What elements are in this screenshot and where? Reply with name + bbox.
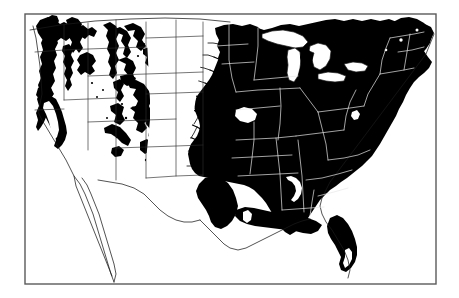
forest-blue-mountains <box>77 52 96 75</box>
forest-florida-peninsula <box>327 215 357 272</box>
forest-utah-plateaus <box>110 103 125 125</box>
map-canvas <box>0 0 459 298</box>
forest-east-texas-pines <box>196 176 238 229</box>
outline-baja-california <box>74 176 116 282</box>
nonforest-lake-champlain <box>399 38 402 41</box>
forest-cover-layer <box>36 15 434 272</box>
border-parallel-c <box>64 98 116 100</box>
forest-cover-figure: Original forest cover of the conterminou… <box>0 0 459 298</box>
nonforest-mooshead-lake <box>416 29 419 32</box>
border-mexico <box>98 180 200 222</box>
forest-mogollon-rim <box>104 124 131 146</box>
